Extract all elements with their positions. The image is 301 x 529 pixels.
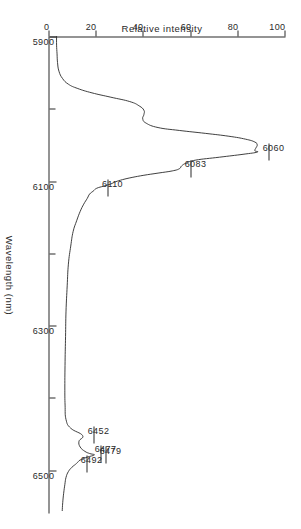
x-tick: [49, 397, 55, 398]
x-tick: [49, 253, 55, 254]
plot-area: 5900610063006500 020406080100 6060608361…: [0, 0, 301, 529]
x-tick-label: 6100: [32, 181, 54, 191]
x-axis-title: Wavelength (nm): [3, 235, 14, 314]
y-tick-label: 100: [269, 21, 285, 31]
peak-label: 6083: [184, 158, 206, 168]
x-tick-label: 6300: [32, 325, 54, 335]
x-tick: [49, 108, 55, 109]
peak-label: 6452: [87, 425, 109, 435]
peak-label: 6110: [102, 178, 123, 188]
spectrum-figure: 5900610063006500 020406080100 6060608361…: [0, 0, 301, 529]
peak-label: 6060: [262, 142, 284, 152]
y-tick-label: 0: [44, 21, 49, 31]
x-tick-label: 6500: [32, 470, 54, 480]
y-axis-title: Relative intensity: [82, 23, 242, 34]
peak-label: 6492: [80, 454, 102, 464]
x-tick-label: 5900: [32, 36, 54, 46]
y-axis-line: [49, 36, 285, 37]
peak-label: 6479: [99, 445, 121, 455]
spectrum-curve-path: [56, 36, 257, 510]
spectrum-curve: [0, 0, 301, 529]
x-axis-line: [48, 36, 49, 513]
